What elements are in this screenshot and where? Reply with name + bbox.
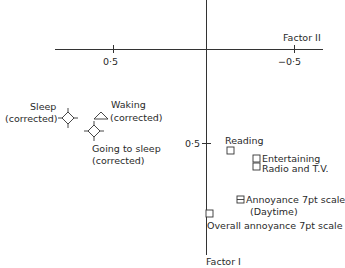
sleep-label-2: (corrected) xyxy=(5,113,58,124)
sleep-label-1: Sleep xyxy=(30,101,56,112)
waking-label-2: (corrected) xyxy=(110,112,163,123)
radio-label: Radio and T.V. xyxy=(262,163,329,174)
waking-marker-icon xyxy=(94,112,108,119)
reading-label: Reading xyxy=(225,135,264,146)
overall-marker-icon xyxy=(206,210,213,217)
sleep-marker-icon xyxy=(58,108,78,128)
annoyance-label-2: (Daytime) xyxy=(250,206,298,217)
entertaining-marker-icon xyxy=(253,155,260,162)
going-label-1: Going to sleep xyxy=(92,143,161,154)
reading-marker-icon xyxy=(227,147,234,154)
waking-label-1: Waking xyxy=(111,99,146,110)
annoyance-label-1: Annoyance 7pt scale xyxy=(246,194,345,205)
annoyance-daytime-marker-icon xyxy=(237,196,244,203)
overall-label: Overall annoyance 7pt scale xyxy=(207,220,343,231)
radio-marker-icon xyxy=(253,163,260,170)
going-label-2: (corrected) xyxy=(92,155,145,166)
going-to-sleep-marker-icon xyxy=(84,121,104,141)
